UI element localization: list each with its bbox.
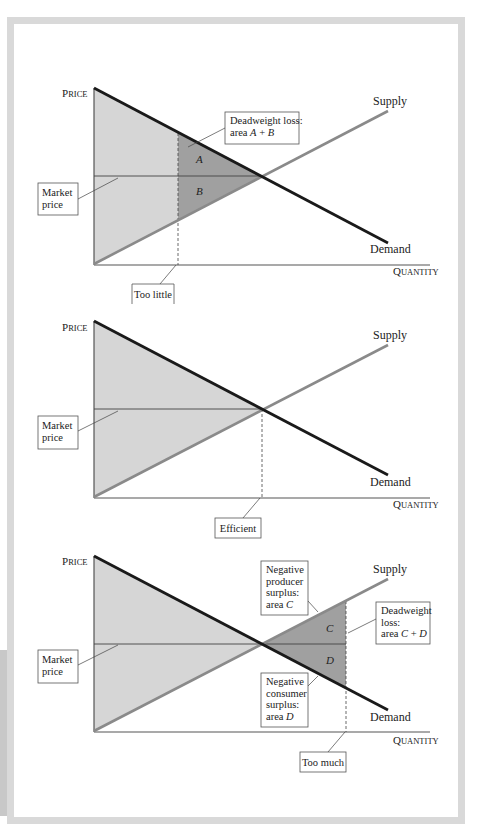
deadweight-loss-box-line: loss: [381, 617, 400, 628]
market-price-line: Market [42, 187, 72, 198]
demand-label: Demand [370, 710, 411, 724]
deadweight-loss-box-line: Deadweight loss: [230, 115, 303, 126]
chart-too-little: PRICEQUANTITYSupplyDemandABMarketpriceDe… [38, 87, 439, 304]
quantity-axis-label: QUANTITY [393, 734, 439, 746]
price-axis-label: PRICE [62, 555, 88, 567]
negative-consumer-surplus-box-line: consumer [266, 688, 307, 699]
negative-producer-surplus-box-line: producer [266, 576, 304, 587]
deadweight-loss-box-line: Deadweight [381, 605, 432, 616]
negative-producer-surplus-box-line: Negative [266, 564, 304, 575]
market-price-line: price [42, 666, 63, 677]
market-price-line: Market [42, 420, 72, 431]
negative-producer-surplus-box-leader [308, 601, 318, 612]
market-price-line: price [42, 199, 63, 210]
negative-consumer-surplus-box-line: surplus: [266, 699, 299, 710]
price-axis-label: PRICE [62, 87, 88, 99]
price-axis-label: PRICE [62, 321, 88, 333]
deadweight-loss-box-leader [348, 619, 376, 633]
supply-label: Supply [373, 562, 407, 576]
negative-consumer-surplus-box-line: Negative [266, 676, 304, 687]
efficient-box-leader [243, 498, 260, 518]
market-price-line: Market [42, 654, 72, 665]
deadweight-loss-box-leader [188, 128, 225, 147]
chart-efficient: PRICEQUANTITYSupplyDemandMarketpriceEffi… [38, 321, 439, 538]
deadweight-loss-box-line: area A + B [230, 127, 275, 138]
area-c-label: C [326, 622, 334, 634]
area-b-label: B [196, 185, 203, 197]
efficient-box-label: Efficient [220, 523, 257, 534]
area-d-label: D [325, 654, 334, 666]
too-much-box-label: Too much [302, 757, 345, 768]
area-a-label: A [195, 153, 203, 165]
supply-label: Supply [373, 94, 407, 108]
negative-producer-surplus-box-line: surplus: [266, 587, 299, 598]
negative-consumer-surplus-box-line: area D [266, 711, 294, 722]
too-much-box-leader [328, 732, 345, 752]
figure-stage: PRICEQUANTITYSupplyDemandABMarketpriceDe… [0, 0, 479, 836]
negative-consumer-surplus-box-leader [308, 676, 318, 686]
supply-label: Supply [373, 328, 407, 342]
deadweight-loss-diagrams: PRICEQUANTITYSupplyDemandABMarketpriceDe… [0, 0, 479, 836]
deadweight-loss-box-line: area C + D [381, 628, 427, 639]
market-price-line: price [42, 432, 63, 443]
quantity-axis-label: QUANTITY [393, 498, 439, 510]
chart-too-much: PRICEQUANTITYSupplyDemandCDMarketpriceNe… [38, 555, 439, 772]
quantity-axis-label: QUANTITY [393, 265, 439, 277]
too-little-box-leader [160, 265, 176, 284]
demand-label: Demand [370, 475, 411, 489]
demand-label: Demand [370, 242, 411, 256]
negative-producer-surplus-box-line: area C [266, 599, 294, 610]
too-little-box-label: Too little [134, 289, 172, 300]
